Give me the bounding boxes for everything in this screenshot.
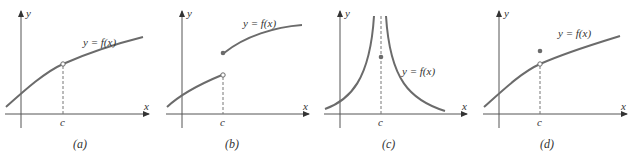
filled-dot xyxy=(538,49,543,54)
tick-label-c: c xyxy=(537,116,542,128)
function-label: y = f(x) xyxy=(557,27,591,40)
curve xyxy=(6,37,143,107)
x-axis-label: x xyxy=(302,100,308,112)
x-axis-label: x xyxy=(620,100,626,112)
open-circle xyxy=(538,62,542,66)
lower-branch xyxy=(167,75,222,107)
panel-a: y x c y = f(x) (a) xyxy=(5,7,149,151)
caption: (d) xyxy=(540,137,554,151)
tick-label-c: c xyxy=(60,116,65,128)
caption: (a) xyxy=(73,137,87,151)
open-circle xyxy=(61,62,65,66)
panel-b: y x c y = f(x) (b) xyxy=(166,7,309,151)
tick-label-c: c xyxy=(220,116,225,128)
y-axis-label: y xyxy=(503,7,509,19)
caption: (b) xyxy=(225,137,239,151)
curve xyxy=(484,36,620,107)
filled-dot xyxy=(221,51,226,56)
y-axis-label: y xyxy=(186,7,192,19)
right-branch xyxy=(386,16,445,111)
x-axis-label: x xyxy=(143,100,149,112)
tick-label-c: c xyxy=(378,116,383,128)
caption: (c) xyxy=(382,137,395,151)
filled-dot xyxy=(379,55,384,60)
panel-c: y x c y = f(x) (c) xyxy=(324,7,467,151)
function-label: y = f(x) xyxy=(82,36,116,49)
function-label: y = f(x) xyxy=(401,65,435,78)
open-circle xyxy=(221,73,225,77)
panel-d: y x c y = f(x) (d) xyxy=(483,7,627,151)
discontinuity-figure: y x c y = f(x) (a) y x c y = f(x) (b) y … xyxy=(0,0,630,156)
function-label: y = f(x) xyxy=(242,17,276,30)
upper-branch xyxy=(224,25,302,53)
y-axis-label: y xyxy=(344,7,350,19)
x-axis-label: x xyxy=(461,100,467,112)
y-axis-label: y xyxy=(25,7,31,19)
left-branch xyxy=(325,16,374,109)
